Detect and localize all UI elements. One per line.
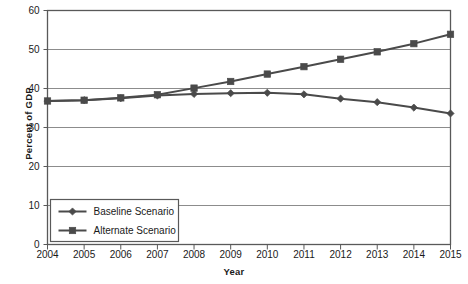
chart-container: Percent of GDP Year Baseline ScenarioAlt…	[0, 0, 468, 284]
y-axis-tick-label: 40	[12, 84, 40, 94]
series-line-baseline-scenario	[48, 93, 451, 114]
x-axis-tick-label: 2011	[284, 250, 324, 260]
data-point-marker-square	[337, 56, 343, 62]
data-point-marker-diamond	[264, 89, 271, 96]
x-axis-tick-label: 2015	[431, 250, 468, 260]
data-point-marker-diamond	[300, 91, 307, 98]
data-point-marker-square	[447, 31, 453, 37]
data-point-marker-square	[191, 85, 197, 91]
legend-item-label: Alternate Scenario	[94, 225, 177, 236]
y-axis-tick-label: 20	[12, 162, 40, 172]
y-axis-tick-label: 0	[12, 240, 40, 250]
data-point-marker-square	[301, 63, 307, 69]
data-point-marker-diamond	[337, 95, 344, 102]
y-axis-tick-label: 10	[12, 201, 40, 211]
x-axis-tick-label: 2010	[247, 250, 287, 260]
x-axis-tick-label: 2008	[174, 250, 214, 260]
line-chart-plot: Baseline ScenarioAlternate Scenario	[0, 0, 468, 284]
x-axis-tick-label: 2007	[137, 250, 177, 260]
x-axis-tick-label: 2006	[101, 250, 141, 260]
data-point-marker-diamond	[227, 90, 234, 97]
x-axis-tick-label: 2012	[321, 250, 361, 260]
data-point-marker-square	[264, 71, 270, 77]
data-point-marker-square	[374, 49, 380, 55]
data-point-marker-square	[69, 227, 75, 233]
x-axis-tick-label: 2009	[211, 250, 251, 260]
data-point-marker-square	[411, 40, 417, 46]
legend: Baseline ScenarioAlternate Scenario	[51, 200, 179, 242]
x-axis-tick-label: 2004	[28, 250, 68, 260]
data-point-marker-square	[118, 95, 124, 101]
y-axis-tick-label: 60	[12, 6, 40, 16]
data-point-marker-square	[227, 78, 233, 84]
data-point-marker-diamond	[447, 110, 454, 117]
data-point-marker-diamond	[410, 104, 417, 111]
data-point-marker-diamond	[374, 99, 381, 106]
data-point-marker-square	[44, 98, 50, 104]
series-line-alternate-scenario	[48, 34, 451, 101]
x-axis-tick-label: 2005	[64, 250, 104, 260]
data-point-marker-square	[154, 92, 160, 98]
legend-item-label: Baseline Scenario	[94, 206, 175, 217]
data-point-marker-square	[81, 97, 87, 103]
y-axis-tick-label: 50	[12, 45, 40, 55]
y-axis-tick-label: 30	[12, 123, 40, 133]
x-axis-tick-label: 2013	[357, 250, 397, 260]
x-axis-tick-label: 2014	[394, 250, 434, 260]
